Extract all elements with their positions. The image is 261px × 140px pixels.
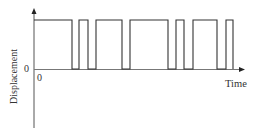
displacement-time-diagram <box>0 0 261 140</box>
y-axis-arrow-icon <box>32 8 37 14</box>
square-waveform <box>34 20 233 69</box>
x-zero-label: 0 <box>37 72 42 83</box>
y-zero-label: 0 <box>24 63 29 74</box>
x-axis-label: Time <box>225 78 247 89</box>
x-axis-arrow-icon <box>239 67 245 72</box>
y-axis-label: Displacement <box>8 49 19 104</box>
